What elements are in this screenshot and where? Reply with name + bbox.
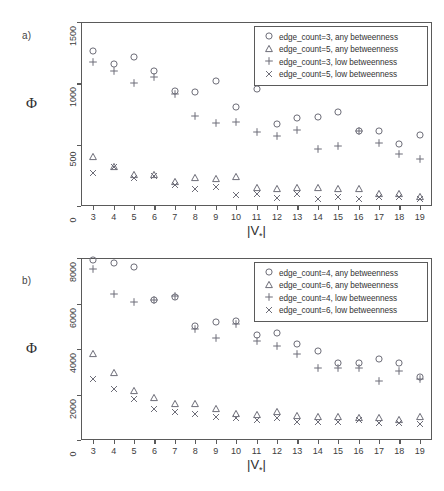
x-tick-mark [114, 440, 115, 444]
legend-marker-cross-icon [259, 66, 279, 84]
x-tick-label: 18 [389, 446, 409, 456]
data-point-circle [414, 129, 426, 141]
data-point-cross [332, 416, 344, 428]
data-point-cross [169, 406, 181, 418]
x-tick-label: 15 [328, 446, 348, 456]
data-point-plus [312, 143, 324, 155]
x-tick-label: 7 [165, 446, 185, 456]
data-point-circle [87, 45, 99, 57]
x-tick-mark [195, 206, 196, 210]
data-point-cross [353, 193, 365, 205]
data-point-triangle [230, 171, 242, 183]
x-tick-mark [399, 440, 400, 444]
x-axis-label-tail: | [263, 457, 266, 472]
legend-label: edge_count=5, any betweenness [279, 45, 398, 54]
data-point-triangle [148, 392, 160, 404]
x-tick-mark [257, 206, 258, 210]
x-tick-mark [93, 206, 94, 210]
data-point-cross [108, 383, 120, 395]
x-tick-label: 10 [226, 212, 246, 222]
data-point-cross [353, 414, 365, 426]
data-point-cross [148, 170, 160, 182]
data-point-circle [189, 86, 201, 98]
data-point-plus [148, 71, 160, 83]
data-point-cross [189, 183, 201, 195]
x-tick-label: 5 [124, 212, 144, 222]
data-point-plus [251, 126, 263, 138]
panel-a-y-axis-label: Φ [26, 95, 37, 112]
legend-item: edge_count=5, any betweenness [259, 44, 421, 57]
data-point-plus [332, 362, 344, 374]
data-point-plus [393, 365, 405, 377]
data-point-plus [291, 124, 303, 136]
x-tick-mark [338, 440, 339, 444]
x-axis-label-main: |V [247, 457, 259, 472]
data-point-circle [128, 261, 140, 273]
data-point-cross [271, 192, 283, 204]
data-point-plus [87, 263, 99, 275]
x-tick-mark [216, 440, 217, 444]
x-tick-label: 3 [83, 212, 103, 222]
data-point-circle [230, 101, 242, 113]
x-tick-label: 6 [144, 446, 164, 456]
data-point-circle [373, 125, 385, 137]
data-point-cross [291, 416, 303, 428]
legend-item: edge_count=6, any betweenness [259, 280, 421, 293]
x-tick-mark [175, 206, 176, 210]
data-point-plus [210, 332, 222, 344]
data-point-plus [148, 294, 160, 306]
x-tick-mark [297, 440, 298, 444]
legend-item: edge_count=4, low betweenness [259, 292, 421, 305]
data-point-plus [128, 296, 140, 308]
y-tick-label: 8000 [68, 257, 78, 287]
panel-a-legend: edge_count=3, any betweennessedge_count=… [254, 26, 428, 86]
x-tick-label: 5 [124, 446, 144, 456]
data-point-plus [393, 148, 405, 160]
data-point-plus [169, 290, 181, 302]
x-tick-mark [236, 206, 237, 210]
data-point-cross [128, 393, 140, 405]
x-tick-mark [154, 440, 155, 444]
x-tick-label: 11 [247, 446, 267, 456]
data-point-plus [271, 130, 283, 142]
x-tick-mark [277, 440, 278, 444]
data-point-cross [373, 191, 385, 203]
data-point-plus [353, 362, 365, 374]
panel-b-legend: edge_count=4, any betweennessedge_count=… [254, 262, 428, 322]
data-point-circle [128, 51, 140, 63]
data-point-circle [373, 353, 385, 365]
data-point-circle [332, 106, 344, 118]
data-point-plus [373, 375, 385, 387]
data-point-circle [108, 257, 120, 269]
data-point-circle [271, 118, 283, 130]
x-tick-mark [195, 440, 196, 444]
legend-label: edge_count=6, any betweenness [279, 281, 398, 290]
data-point-circle [312, 345, 324, 357]
x-tick-label: 9 [206, 212, 226, 222]
data-point-cross [393, 417, 405, 429]
x-tick-mark [277, 206, 278, 210]
data-point-cross [230, 189, 242, 201]
x-tick-mark [359, 206, 360, 210]
data-point-circle [291, 112, 303, 124]
data-point-cross [271, 412, 283, 424]
x-tick-label: 4 [104, 446, 124, 456]
data-point-cross [393, 191, 405, 203]
data-point-plus [169, 88, 181, 100]
data-point-cross [291, 188, 303, 200]
y-tick-label: 1500 [68, 21, 78, 51]
data-point-cross [87, 373, 99, 385]
y-tick-label: 6000 [68, 303, 78, 333]
x-tick-label: 8 [185, 446, 205, 456]
data-point-plus [291, 348, 303, 360]
panel-b-x-axis-label: |V*| [217, 457, 297, 475]
data-point-circle [271, 327, 283, 339]
figure-scatter-plots: a) Φ |V*| edge_count=3, any betweennesse… [0, 0, 444, 491]
data-point-plus [414, 373, 426, 385]
data-point-plus [189, 110, 201, 122]
x-tick-label: 10 [226, 446, 246, 456]
x-tick-mark [257, 440, 258, 444]
data-point-cross [128, 172, 140, 184]
data-point-plus [87, 56, 99, 68]
x-tick-mark [297, 206, 298, 210]
